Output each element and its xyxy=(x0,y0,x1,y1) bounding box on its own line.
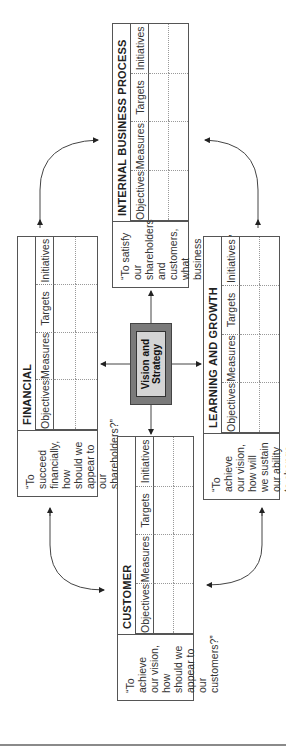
column-header: Targets xyxy=(222,285,240,333)
table-cell[interactable] xyxy=(54,379,76,429)
internal-table: Objectives Measures Targets Initiatives xyxy=(130,24,188,221)
table-cell[interactable] xyxy=(76,379,98,429)
table-cell[interactable] xyxy=(260,334,280,382)
vision-strategy-label: Vision and Strategy xyxy=(140,339,162,389)
column-header: Targets xyxy=(36,284,54,331)
table-cell[interactable] xyxy=(154,583,174,633)
column-header: Objectives xyxy=(36,379,54,429)
table-cell[interactable] xyxy=(260,285,280,333)
balanced-scorecard-diagram: “To satisfy our shareholders and custome… xyxy=(0,0,286,755)
learning-growth-box: “To achieve our vision, how will we sust… xyxy=(203,236,280,500)
internal-question: “To satisfy our shareholders and custome… xyxy=(113,221,188,287)
table-cell[interactable] xyxy=(149,121,169,170)
vision-label-line1: Vision and xyxy=(140,339,151,389)
table-cell[interactable] xyxy=(260,237,280,285)
table-cell[interactable] xyxy=(240,334,260,382)
customer-table: Objectives Measures Targets Initiatives xyxy=(135,437,193,634)
table-cell[interactable] xyxy=(169,121,189,170)
table-cell[interactable] xyxy=(260,382,280,432)
vision-strategy-box: Vision and Strategy xyxy=(130,323,172,405)
table-cell[interactable] xyxy=(154,486,174,535)
table-cell[interactable] xyxy=(76,237,98,284)
table-cell[interactable] xyxy=(76,284,98,331)
financial-table: Objectives Measures Targets Initiatives xyxy=(35,237,97,430)
column-header: Measures xyxy=(131,121,149,170)
customer-box: “To achieve our vision, how should we ap… xyxy=(117,436,194,701)
curve-financial-customer xyxy=(50,510,104,590)
column-header: Objectives xyxy=(131,170,149,220)
table-cell[interactable] xyxy=(149,170,169,220)
column-header: Initiatives xyxy=(131,24,149,73)
financial-question: “To succeed financially, how should we a… xyxy=(18,430,97,496)
internal-business-process-box: “To satisfy our shareholders and custome… xyxy=(112,23,189,288)
table-cell[interactable] xyxy=(169,73,189,122)
column-header: Measures xyxy=(136,534,154,583)
table-cell[interactable] xyxy=(54,332,76,379)
vision-strategy-inner: Vision and Strategy xyxy=(136,331,166,397)
table-cell[interactable] xyxy=(149,24,169,73)
learning-question: “To achieve our vision, how will we sust… xyxy=(204,433,279,499)
learning-title: LEARNING AND GROWTH xyxy=(207,287,219,428)
vision-label-line2: Strategy xyxy=(151,339,162,389)
internal-title: INTERNAL BUSINESS PROCESS xyxy=(116,39,128,216)
table-cell[interactable] xyxy=(174,437,194,486)
curve-learning-internal xyxy=(205,140,258,225)
learning-table: Objectives Measures Targets Initiatives xyxy=(221,237,279,433)
table-cell[interactable] xyxy=(174,583,194,633)
table-cell[interactable] xyxy=(54,284,76,331)
table-cell[interactable] xyxy=(174,486,194,535)
curve-financial-internal xyxy=(40,140,98,225)
table-cell[interactable] xyxy=(240,382,260,432)
table-cell[interactable] xyxy=(240,237,260,285)
financial-box: “To succeed financially, how should we a… xyxy=(17,236,98,497)
financial-title: FINANCIAL xyxy=(21,364,33,425)
table-cell[interactable] xyxy=(240,285,260,333)
table-cell[interactable] xyxy=(54,237,76,284)
table-cell[interactable] xyxy=(154,437,174,486)
table-cell[interactable] xyxy=(169,24,189,73)
column-header: Objectives xyxy=(136,583,154,633)
customer-question: “To achieve our vision, how should we ap… xyxy=(118,634,193,700)
table-cell[interactable] xyxy=(174,534,194,583)
table-cell[interactable] xyxy=(76,332,98,379)
column-header: Objectives xyxy=(222,382,240,432)
column-header: Initiatives xyxy=(222,237,240,285)
column-header: Targets xyxy=(131,73,149,122)
column-header: Measures xyxy=(36,332,54,379)
column-header: Targets xyxy=(136,486,154,535)
customer-title: CUSTOMER xyxy=(121,565,133,629)
curve-learning-customer xyxy=(207,510,262,585)
table-cell[interactable] xyxy=(169,170,189,220)
column-header: Initiatives xyxy=(36,237,54,284)
table-cell[interactable] xyxy=(149,73,169,122)
table-cell[interactable] xyxy=(154,534,174,583)
page-bottom-rule xyxy=(0,744,286,746)
column-header: Initiatives xyxy=(136,437,154,486)
column-header: Measures xyxy=(222,334,240,382)
